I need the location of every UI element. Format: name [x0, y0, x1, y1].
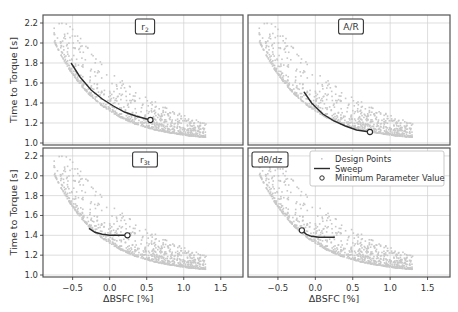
y-tick-label: 1.4: [24, 230, 38, 240]
y-tick-label: 1.0: [24, 138, 38, 148]
x-tick-label: 1.0: [383, 283, 397, 293]
x-tick-label: 0.5: [346, 283, 360, 293]
legend-label: Sweep: [335, 164, 363, 174]
subplot-bottom-right: dθ/dz−0.50.00.51.01.5ΔBSFC [%]Design Poi…: [248, 148, 450, 304]
x-axis-label: ΔBSFC [%]: [309, 293, 359, 304]
y-tick-label: 2.2: [24, 151, 38, 161]
y-tick-label: 1.4: [24, 98, 38, 108]
y-tick-label: 2.0: [24, 38, 38, 48]
legend: Design PointsSweepMinimum Parameter Valu…: [310, 151, 445, 186]
subplot-title: r3t: [133, 152, 158, 167]
x-tick-label: 1.0: [177, 283, 191, 293]
x-axis-label: ΔBSFC [%]: [103, 293, 153, 304]
y-tick-label: 2.0: [24, 171, 38, 181]
legend-label: Design Points: [335, 154, 391, 164]
subplot-title: r2: [135, 19, 154, 34]
y-tick-label: 1.6: [24, 210, 38, 220]
minimum-marker: [299, 228, 304, 233]
y-tick-label: 1.2: [24, 118, 38, 128]
x-tick-label: 0.5: [140, 283, 154, 293]
minimum-marker: [367, 129, 372, 134]
x-tick-label: −0.5: [62, 283, 83, 293]
x-tick-label: −0.5: [268, 283, 289, 293]
svg-text:A/R: A/R: [343, 22, 358, 32]
x-tick-label: 1.5: [214, 283, 228, 293]
y-tick-label: 2.2: [24, 18, 38, 28]
subplot-bottom-left: r3t1.01.21.41.61.82.02.2Time to Torque […: [8, 148, 243, 304]
figure: r21.01.21.41.61.82.02.2Time to Torque [s…: [0, 0, 458, 312]
x-tick-label: 0.0: [103, 283, 117, 293]
minimum-marker: [148, 117, 153, 122]
y-tick-label: 1.6: [24, 78, 38, 88]
legend-label: Minimum Parameter Value: [335, 173, 445, 183]
minimum-marker: [125, 233, 130, 238]
subplot-top-left: r21.01.21.41.61.82.02.2Time to Torque [s…: [8, 15, 243, 148]
y-tick-label: 1.0: [24, 270, 38, 280]
subplot-top-right: A/R: [248, 15, 450, 145]
chart-canvas: r21.01.21.41.61.82.02.2Time to Torque [s…: [0, 0, 458, 312]
subplot-title: dθ/dz: [252, 152, 288, 167]
y-axis-label: Time to Torque [s]: [8, 37, 19, 124]
subplot-title: A/R: [339, 19, 364, 34]
y-tick-label: 1.8: [24, 58, 38, 68]
y-tick-label: 1.2: [24, 250, 38, 260]
y-axis-label: Time to Torque [s]: [8, 170, 19, 257]
svg-text:dθ/dz: dθ/dz: [258, 155, 283, 165]
x-tick-label: 0.0: [309, 283, 323, 293]
y-tick-label: 1.8: [24, 191, 38, 201]
x-tick-label: 1.5: [421, 283, 435, 293]
sweep-line: [71, 63, 150, 120]
